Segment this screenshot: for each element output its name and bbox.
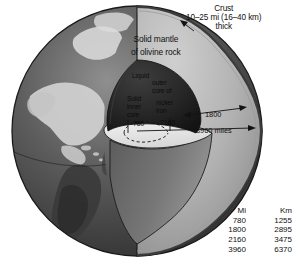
conversion-table: Mi Km 780 1255 1800 2895 2160 3475 3960 …: [216, 206, 292, 255]
conversion-header-mi: Mi: [216, 206, 246, 216]
crust-label: Crust 10–25 mi (16–40 km) thick: [186, 4, 261, 32]
callout-outer-core-radius: 2160: [160, 119, 175, 126]
crust-label-line1: Crust: [186, 4, 261, 13]
inner-core-line3: core: [127, 111, 141, 119]
outer-core-label-rest: outer core of: [152, 79, 171, 95]
crust-label-line3: thick: [186, 22, 261, 31]
conversion-cell-km: 1255: [246, 216, 292, 226]
outer-core-label-nickel: nickel iron: [156, 99, 172, 115]
table-row: 3960 6370: [216, 245, 292, 255]
outer-core-label-liquid: Liquid: [132, 72, 149, 79]
conversion-cell-mi: 1800: [216, 225, 246, 235]
inner-core-line1: Solid: [127, 95, 141, 103]
conversion-header-km: Km: [246, 206, 292, 216]
mantle-label: Solid mantle of olivine rock: [131, 33, 181, 58]
outer-core-line2: outer: [152, 79, 171, 87]
outer-core-line5: iron: [156, 107, 172, 115]
conversion-table-header-row: Mi Km: [216, 206, 292, 216]
conversion-cell-km: 6370: [246, 245, 292, 255]
outer-core-line4: nickel: [156, 99, 172, 107]
mantle-label-line2: of olivine rock: [131, 46, 181, 59]
callout-mantle-depth: 1800: [205, 110, 221, 119]
callout-earth-radius: 3960 miles: [196, 126, 232, 135]
conversion-cell-mi: 3960: [216, 245, 246, 255]
inner-core-line2: inner: [127, 103, 141, 111]
crust-label-line2: 10–25 mi (16–40 km): [186, 13, 261, 22]
table-row: 2160 3475: [216, 235, 292, 245]
table-row: 1800 2895: [216, 225, 292, 235]
mantle-label-line1: Solid mantle: [131, 33, 181, 46]
conversion-cell-mi: 2160: [216, 235, 246, 245]
earth-cutaway-figure: Crust 10–25 mi (16–40 km) thick Solid ma…: [0, 0, 294, 263]
conversion-cell-mi: 780: [216, 216, 246, 226]
outer-core-line1: Liquid: [132, 72, 149, 79]
callout-inner-core-radius: 780: [133, 120, 144, 127]
inner-core-label: Solid inner core: [127, 95, 141, 119]
table-row: 780 1255: [216, 216, 292, 226]
conversion-cell-km: 3475: [246, 235, 292, 245]
outer-core-line3: core of: [152, 87, 171, 95]
conversion-cell-km: 2895: [246, 225, 292, 235]
